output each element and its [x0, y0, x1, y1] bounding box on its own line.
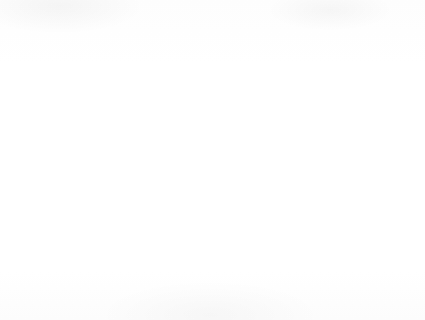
category-label: Microwave, ready — [0, 249, 106, 260]
bar-value-label: 0.26 — [118, 270, 139, 283]
x-tick-label: 150 — [390, 295, 425, 307]
x-tick-label: 0 — [90, 295, 130, 307]
category-label: Cellphone Charger,unattached — [0, 266, 106, 289]
category-label: Game Console,ready mode — [0, 82, 106, 105]
bar-value-label: 5 — [126, 201, 132, 214]
category-label-line: Microwave, ready — [0, 249, 106, 260]
category-label-line: Copier, on — [0, 157, 106, 168]
bar-value-label: 131 — [378, 17, 396, 30]
bar — [111, 86, 157, 99]
category-label-line: DVD Player, — [0, 174, 106, 185]
row-separator — [111, 36, 410, 37]
bar-value-label: 4.5 — [125, 224, 140, 237]
category-label-line: ready mode — [0, 93, 106, 104]
x-tick-mark — [230, 289, 231, 293]
category-label-line: ready mode — [0, 185, 106, 196]
category-label-line: Game Console, — [0, 82, 106, 93]
row-separator — [111, 82, 410, 83]
row-separator — [111, 220, 410, 221]
category-label-line: Desktop Computer, — [0, 36, 106, 47]
row-separator — [111, 59, 410, 60]
row-separator — [111, 151, 410, 152]
x-tick-mark — [350, 289, 351, 293]
category-label-line: Digital Cable Box, on — [0, 134, 106, 145]
x-tick-label: 90 — [270, 295, 310, 307]
row-separator — [111, 243, 410, 244]
bar — [111, 178, 126, 191]
x-tick-label: 60 — [210, 295, 250, 307]
category-label-line: Cellphone Charger, — [0, 266, 106, 277]
category-label-line: Television, off — [0, 203, 106, 214]
bar — [111, 40, 259, 53]
category-label: TV, DVR Setbox, off — [0, 65, 106, 76]
category-label-line: Laser Printer, on — [0, 19, 106, 30]
bar — [111, 109, 153, 122]
bar — [111, 155, 129, 168]
x-tick-mark — [170, 289, 171, 293]
bar — [111, 247, 117, 260]
bar — [111, 201, 121, 214]
x-axis-line — [110, 289, 411, 290]
bar — [111, 224, 120, 237]
category-label: DVD Player,ready mode — [0, 174, 106, 197]
category-label-line: idle mode — [0, 47, 106, 58]
category-label: Copier, on — [0, 157, 106, 168]
bar-value-label: 21 — [158, 109, 170, 122]
category-label-line: unattached — [0, 277, 106, 288]
bar — [111, 17, 373, 30]
x-tick-label: 30 — [150, 295, 190, 307]
bar-value-label: 18 — [152, 132, 164, 145]
category-label: Laser Printer, on — [0, 19, 106, 30]
bar — [111, 132, 147, 145]
x-tick-mark — [110, 289, 111, 293]
row-separator — [111, 197, 410, 198]
row-separator — [111, 174, 410, 175]
row-separator — [111, 105, 410, 106]
x-tick-label: 120 — [330, 295, 370, 307]
category-label-line: Nightlight, on — [0, 226, 106, 237]
bar — [111, 63, 185, 76]
category-label: Nightlight, on — [0, 226, 106, 237]
x-tick-mark — [410, 289, 411, 293]
bar-value-label: 3 — [122, 247, 128, 260]
x-tick-mark — [290, 289, 291, 293]
category-label-line: Desktop Computer, — [0, 105, 106, 116]
category-label-line: sleep mode — [0, 116, 106, 127]
row-separator — [111, 266, 410, 267]
category-label: Desktop Computer,sleep mode — [0, 105, 106, 128]
bar-value-label: 37 — [190, 63, 202, 76]
category-label: Digital Cable Box, on — [0, 134, 106, 145]
category-label: Desktop Computer,idle mode — [0, 36, 106, 59]
category-label: Television, off — [0, 203, 106, 214]
bar-chart: 0306090120150 Laser Printer, onDesktop C… — [0, 0, 425, 320]
bar — [111, 270, 113, 283]
bar-value-label: 9 — [134, 155, 140, 168]
bar-value-label: 23 — [162, 86, 174, 99]
row-separator — [111, 128, 410, 129]
bar-value-label: 74 — [264, 40, 276, 53]
category-label-line: TV, DVR Setbox, off — [0, 65, 106, 76]
bar-value-label: 7.5 — [131, 178, 146, 191]
